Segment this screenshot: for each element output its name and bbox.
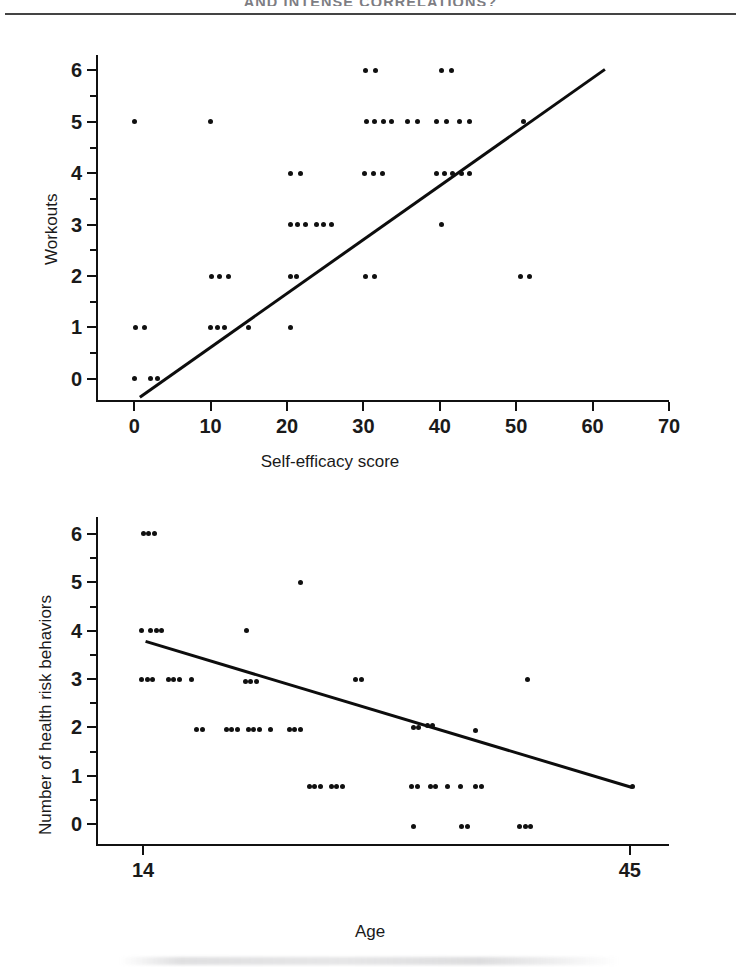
x-tick-label-top-0: 0 <box>129 416 140 436</box>
data-point <box>222 325 227 330</box>
data-point <box>229 727 234 732</box>
y-tick-label-top-4: 4 <box>71 163 82 183</box>
data-point <box>150 677 155 682</box>
y-minor-tick-top <box>90 352 96 354</box>
data-point <box>442 171 447 176</box>
y-minor-tick-bottom <box>90 606 96 608</box>
x-tick-label-top-20: 20 <box>276 416 298 436</box>
x-tick-label-bottom-14: 14 <box>132 860 154 880</box>
data-point <box>467 119 472 124</box>
y-tick-label-bottom-6: 6 <box>71 524 82 544</box>
data-point <box>340 784 345 789</box>
y-tick-top-3 <box>87 224 96 226</box>
data-point <box>314 222 319 227</box>
y-tick-label-bottom-2: 2 <box>71 717 82 737</box>
x-tick-top-0 <box>133 402 135 411</box>
data-point <box>445 784 450 789</box>
plot-area-bottom: 01234561445 <box>96 517 669 846</box>
y-minor-tick-bottom <box>90 799 96 801</box>
data-point <box>257 727 262 732</box>
data-point <box>145 677 150 682</box>
data-point <box>254 679 259 684</box>
x-tick-top-40 <box>439 402 441 411</box>
y-tick-top-4 <box>87 172 96 174</box>
data-point <box>142 325 147 330</box>
data-point <box>268 727 273 732</box>
y-tick-top-0 <box>87 378 96 380</box>
data-point <box>409 784 414 789</box>
data-point <box>523 824 528 829</box>
y-tick-top-1 <box>87 326 96 328</box>
x-tick-label-top-60: 60 <box>581 416 603 436</box>
y-axis-spine-top <box>96 55 98 402</box>
y-tick-bottom-1 <box>87 775 96 777</box>
y-tick-bottom-5 <box>87 581 96 583</box>
y-tick-label-bottom-5: 5 <box>71 572 82 592</box>
data-point <box>209 274 214 279</box>
x-tick-label-top-10: 10 <box>199 416 221 436</box>
data-point <box>411 725 416 730</box>
data-point <box>307 784 312 789</box>
data-point <box>303 222 308 227</box>
data-point <box>132 376 137 381</box>
data-point <box>248 679 253 684</box>
data-point <box>224 727 229 732</box>
data-point <box>321 222 326 227</box>
figure-workouts-vs-self-efficacy: 0123456010203040506070 Self-efficacy sco… <box>0 0 741 480</box>
data-point <box>287 727 292 732</box>
data-point <box>177 677 182 682</box>
x-tick-label-top-70: 70 <box>658 416 680 436</box>
data-point <box>159 628 164 633</box>
data-point <box>449 68 454 73</box>
y-tick-label-bottom-3: 3 <box>71 669 82 689</box>
data-point <box>235 727 240 732</box>
x-tick-top-30 <box>362 402 364 411</box>
data-point <box>389 119 394 124</box>
x-tick-label-bottom-45: 45 <box>619 860 641 880</box>
data-point <box>458 784 463 789</box>
data-point <box>215 325 220 330</box>
x-axis-spine-bottom <box>96 844 669 846</box>
x-tick-top-20 <box>286 402 288 411</box>
data-point <box>416 725 421 730</box>
y-minor-tick-bottom <box>90 654 96 656</box>
y-tick-label-top-1: 1 <box>71 317 82 337</box>
data-point <box>146 531 151 536</box>
data-point <box>415 784 420 789</box>
data-point <box>353 677 358 682</box>
data-point <box>318 784 323 789</box>
data-point <box>208 119 213 124</box>
y-minor-tick-top <box>90 198 96 200</box>
data-point <box>457 119 462 124</box>
data-point <box>152 531 157 536</box>
y-tick-bottom-4 <box>87 630 96 632</box>
y-minor-tick-top <box>90 95 96 97</box>
y-tick-bottom-2 <box>87 726 96 728</box>
y-tick-top-5 <box>87 121 96 123</box>
data-point <box>148 628 153 633</box>
y-minor-tick-bottom <box>90 751 96 753</box>
x-tick-bottom-14 <box>142 846 144 855</box>
y-tick-bottom-6 <box>87 533 96 535</box>
data-point <box>312 784 317 789</box>
data-point <box>244 628 249 633</box>
data-point <box>362 171 367 176</box>
data-point <box>415 119 420 124</box>
data-point <box>139 628 144 633</box>
page-bottom-caption-smudge <box>120 957 620 965</box>
data-point <box>434 171 439 176</box>
data-point <box>363 68 368 73</box>
data-point <box>166 677 171 682</box>
y-tick-label-bottom-4: 4 <box>71 621 82 641</box>
data-point <box>298 580 303 585</box>
data-point <box>246 325 251 330</box>
data-point <box>517 824 522 829</box>
data-point <box>208 325 213 330</box>
trend-line-top <box>139 68 606 398</box>
data-point <box>329 784 334 789</box>
data-point <box>251 727 256 732</box>
y-tick-bottom-0 <box>87 823 96 825</box>
data-point <box>473 728 478 733</box>
data-point <box>373 68 378 73</box>
data-point <box>288 325 293 330</box>
